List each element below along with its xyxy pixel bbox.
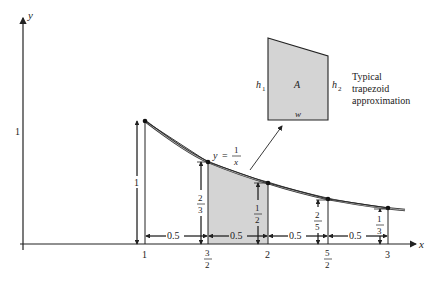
inset-h1-label: h 1 [256, 79, 266, 93]
svg-text:=: = [222, 150, 228, 161]
inset-caption: Typical trapezoid approximation [352, 71, 410, 106]
svg-text:h: h [332, 79, 337, 90]
height-label-1-3: 1 3 [375, 212, 385, 236]
y-axis-label: y [27, 9, 33, 21]
width-label-4: 0.5 [349, 230, 362, 241]
x-tick-3: 3 [385, 249, 390, 260]
point-x1 [143, 119, 148, 124]
x-axis-label: x [418, 238, 424, 250]
point-x2.5 [326, 197, 331, 202]
svg-text:3: 3 [205, 248, 210, 258]
width-label-2: 0.5 [230, 230, 243, 241]
svg-text:h: h [256, 79, 261, 90]
height-label-1: 1 [134, 177, 139, 188]
svg-text:2: 2 [255, 215, 260, 225]
svg-text:1: 1 [234, 145, 239, 155]
svg-text:3: 3 [377, 226, 382, 236]
y-tick-1: 1 [15, 126, 20, 137]
svg-text:1: 1 [377, 214, 382, 224]
inset-area-label: A [293, 79, 301, 90]
svg-text:3: 3 [198, 205, 203, 215]
trapezoid-rule-diagram: y x 1 1 2 3 1 [0, 0, 428, 283]
svg-text:1: 1 [262, 85, 266, 93]
pointer-arrow [250, 126, 282, 170]
width-label-3: 0.5 [289, 230, 302, 241]
svg-text:2: 2 [205, 260, 210, 270]
svg-text:2: 2 [315, 210, 320, 220]
svg-text:approximation: approximation [352, 95, 410, 106]
height-label-2-5: 2 5 [313, 207, 323, 233]
x-tick-2: 2 [265, 249, 270, 260]
height-label-1-2: 1 2 [253, 200, 263, 226]
svg-text:5: 5 [325, 248, 330, 258]
svg-text:2: 2 [325, 260, 330, 270]
svg-text:2: 2 [198, 193, 203, 203]
inset-width-label: w [295, 109, 301, 119]
x-tick-1: 1 [142, 249, 147, 260]
x-tick-5-2: 5 2 [324, 248, 332, 270]
width-label-1: 0.5 [167, 230, 180, 241]
svg-text:trapezoid: trapezoid [352, 83, 389, 94]
curve-label: y = 1 x [212, 145, 241, 167]
svg-text:x: x [233, 157, 238, 167]
curve-1-over-x [145, 121, 405, 210]
svg-text:1: 1 [255, 203, 260, 213]
svg-text:Typical: Typical [352, 71, 382, 82]
x-tick-3-2: 3 2 [204, 248, 212, 270]
height-label-2-3: 2 3 [196, 190, 206, 216]
inset-h2-label: h 2 [332, 79, 342, 93]
svg-text:2: 2 [338, 85, 342, 93]
point-x3 [386, 206, 391, 211]
svg-text:y: y [212, 150, 218, 161]
svg-text:5: 5 [315, 222, 320, 232]
